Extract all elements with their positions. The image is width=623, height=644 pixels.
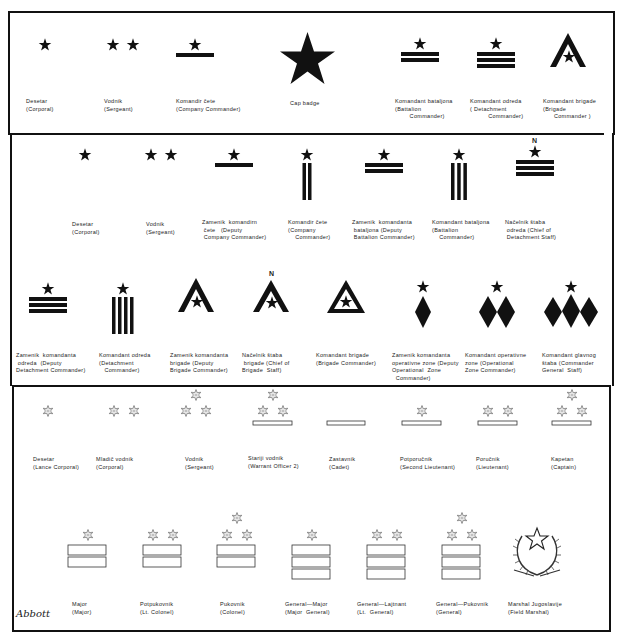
divider <box>10 133 604 135</box>
star-two-diamonds-icon <box>478 280 516 328</box>
two-outline-stars-bar-icon <box>477 405 519 427</box>
rank-label: Zamenik komandanta odreda (Deputy Detach… <box>16 352 86 375</box>
staff-marker: N <box>269 270 274 278</box>
star-three-bars-icon <box>476 37 516 71</box>
rank-label: Komandant glavnogštaba (Commander Genera… <box>542 352 596 375</box>
star-three-diamonds-icon <box>543 280 599 328</box>
staff-marker: N <box>532 137 537 145</box>
rank-label: Desetar(Corporal) <box>26 98 54 113</box>
outline-star-three-bars-icon <box>291 529 333 581</box>
two-stars-icon <box>144 148 180 162</box>
rank-label: Komandant brigade(Brigade Commander ) <box>543 98 596 121</box>
star-diamond-icon <box>413 280 433 328</box>
rank-label: Desetar(Lance Corporal) <box>33 456 79 471</box>
rank-label: General—Pukovnik(General) <box>436 601 488 616</box>
rank-label: Zamenik komandantaoperativne zone (Deput… <box>392 352 459 382</box>
three-outline-stars-bar-icon <box>551 389 593 427</box>
rank-label: Komandant bataljona(Battalion Commander) <box>395 98 453 121</box>
star-icon <box>38 38 52 52</box>
chevron-star-icon <box>253 280 289 314</box>
rank-label: Potporučnik(Second Lieutenant) <box>400 456 455 471</box>
rank-label: Načelnik štaba brigade (Chief of Brigade… <box>242 352 290 375</box>
rank-label: Komandant odreda( Detachment Commander) <box>470 98 523 121</box>
rank-label: Stariji vodnik(Warrant Officer 2) <box>248 455 299 470</box>
star-three-vertical-bars-icon <box>450 148 468 200</box>
rank-label: Mladič vodnik(Corporal) <box>96 456 133 471</box>
rank-label: Komandant operativnezone (Operational Zo… <box>465 352 526 375</box>
rank-label: Zamenik komandantabrigade (Deputy Brigad… <box>170 352 228 375</box>
rank-label: Komandir čete(Company Commander) <box>176 98 241 113</box>
star-two-bars-icon <box>400 37 440 65</box>
rank-label: Major(Major) <box>72 601 92 616</box>
section-jna-1945 <box>12 385 611 632</box>
rank-label: Potpukovnik(Lt. Colonel) <box>140 601 174 616</box>
two-stars-icon <box>106 38 142 52</box>
rank-label: Cap badge <box>290 100 320 108</box>
rank-label: Zamenik komandirn čete (Deputy Company C… <box>202 219 266 242</box>
star-three-bars-icon <box>515 145 555 179</box>
outline-star-two-bars-icon <box>67 529 109 569</box>
two-outline-stars-icon <box>108 405 140 417</box>
three-outline-stars-icon <box>180 389 212 419</box>
three-outline-stars-three-bars-icon <box>441 512 483 581</box>
star-two-vertical-bars-icon <box>300 148 314 200</box>
rank-label: Komandir čete(Company Commander) <box>288 219 330 242</box>
artist-signature: Abbott <box>16 608 50 619</box>
rank-label: Marshal Jugoslavije(Field Marshal) <box>508 601 562 616</box>
rank-label: Poručnik(Lieutenant) <box>476 456 509 471</box>
rank-label: Vodnik(Sergeant) <box>146 221 175 236</box>
two-outline-stars-two-bars-icon <box>142 529 184 569</box>
laurel-wreath-star-icon <box>512 526 562 578</box>
star-four-vertical-bars-icon <box>111 282 135 334</box>
rank-label: Komandant odreda(Detachment Commander) <box>99 352 151 375</box>
rank-label: Vodnik(Sergeant) <box>185 456 214 471</box>
rank-label: Kapetan(Captain) <box>551 456 576 471</box>
bar-icon <box>326 419 366 427</box>
rank-label: Zastavnik(Cadet) <box>329 456 355 471</box>
star-icon <box>78 148 92 162</box>
rank-label: Komandant bataljona(Battalion Commander) <box>432 219 490 242</box>
rank-label: Načelnik štaba odreda (Chief of Detachme… <box>505 219 556 242</box>
rank-label: Desetar(Corporal) <box>72 221 100 236</box>
three-outline-stars-two-bars-icon <box>216 512 258 569</box>
star-three-bars-icon <box>28 282 68 316</box>
rank-label: Vodnik(Sergeant) <box>104 98 133 113</box>
rank-label: Zamenik komandanta bataljona (Deputy Bat… <box>352 219 415 242</box>
outline-star-icon <box>42 405 54 417</box>
rank-label: General—Major(Major General) <box>285 601 330 616</box>
star-bar-icon <box>214 148 254 170</box>
star-two-bars-icon <box>364 148 404 176</box>
three-outline-stars-bar-icon <box>252 389 294 427</box>
two-outline-stars-three-bars-icon <box>366 529 408 581</box>
rank-label: Pukovnik(Colonel) <box>220 601 245 616</box>
rank-label: Komandant brigade(Brigade Commander) <box>316 352 376 367</box>
star-bar-icon <box>175 38 215 60</box>
chevron-star-icon <box>178 278 214 314</box>
cap-badge-star-icon <box>280 32 335 84</box>
chevron-star-icon <box>550 33 586 69</box>
triangle-star-icon <box>327 280 365 314</box>
rank-label: General—Lajtnant(Lt. General) <box>357 601 406 616</box>
outline-star-bar-icon <box>401 405 443 427</box>
